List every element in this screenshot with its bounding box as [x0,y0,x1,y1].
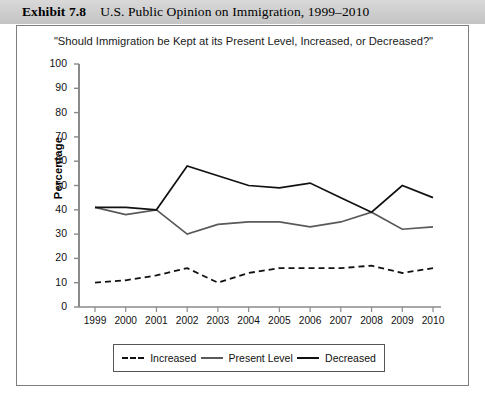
x-tick-label: 2005 [262,315,296,326]
y-tick-label: 50 [41,179,67,191]
x-tick-label: 2009 [385,315,419,326]
plot-area: 1009080706050403020100 19992000200120022… [17,26,470,387]
legend-line-present-level-icon [201,353,223,363]
x-tick-label: 2004 [232,315,266,326]
x-tick-label: 1999 [78,315,112,326]
chart-legend: Increased Present Level Decreased [113,344,385,372]
exhibit-header: Exhibit 7.8 U.S. Public Opinion on Immig… [0,0,485,24]
y-tick-label: 100 [41,57,67,69]
legend-label-increased: Increased [150,352,196,364]
y-tick-label: 10 [41,276,67,288]
x-tick-label: 2003 [201,315,235,326]
y-tick-label: 40 [41,203,67,215]
legend-line-decreased-icon [297,353,319,363]
data-series-layer [95,166,433,283]
x-tick-label: 2007 [324,315,358,326]
legend-item-present-level[interactable]: Present Level [201,352,293,364]
x-tick-label: 2006 [293,315,327,326]
y-tick-label: 80 [41,106,67,118]
exhibit-label: Exhibit 7.8 [22,4,86,20]
chart-panel: "Should Immigration be Kept at its Prese… [16,25,469,386]
x-tick-label: 2010 [416,315,450,326]
legend-item-decreased[interactable]: Decreased [297,352,376,364]
series-line-increased [95,266,433,283]
y-tick-label: 20 [41,251,67,263]
legend-label-present-level: Present Level [229,352,293,364]
exhibit-title: U.S. Public Opinion on Immigration, 1999… [100,4,369,20]
exhibit-figure: Exhibit 7.8 U.S. Public Opinion on Immig… [0,0,485,394]
x-tick-label: 2000 [109,315,143,326]
series-line-decreased [95,166,433,212]
y-tick-label: 70 [41,130,67,142]
legend-label-decreased: Decreased [325,352,376,364]
y-tick-label: 60 [41,154,67,166]
y-tick-label: 0 [41,300,67,312]
x-tick-label: 2008 [355,315,389,326]
plot-svg [17,26,470,387]
legend-item-increased[interactable]: Increased [122,352,196,364]
x-tick-label: 2002 [170,315,204,326]
y-tick-label: 30 [41,227,67,239]
legend-line-increased-icon [122,353,144,363]
y-tick-label: 90 [41,81,67,93]
x-tick-label: 2001 [139,315,173,326]
series-line-present-level [95,207,433,234]
